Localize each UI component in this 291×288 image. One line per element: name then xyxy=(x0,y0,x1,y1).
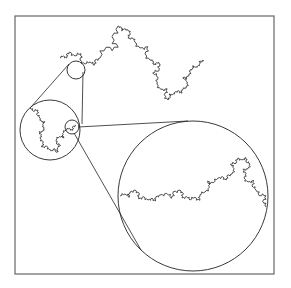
fractal-curve-zoom-1 xyxy=(30,108,76,152)
fractal-curve-zoom-2 xyxy=(120,158,266,208)
fractal-curves xyxy=(30,26,266,207)
connector-line-1 xyxy=(82,72,83,124)
circle-zoom-source-inner xyxy=(65,120,79,134)
fractal-zoom-diagram xyxy=(0,0,291,288)
diagram-canvas xyxy=(0,0,291,288)
magnification-connector-lines xyxy=(31,64,188,250)
circle-zoom-source-small xyxy=(67,61,85,79)
magnification-circles xyxy=(20,61,268,271)
connector-line-0 xyxy=(31,64,69,107)
diagram-frame xyxy=(15,16,274,274)
